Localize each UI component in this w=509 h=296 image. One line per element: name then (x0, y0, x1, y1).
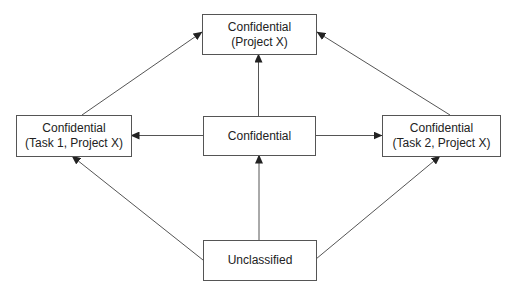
edge-left-to-top (82, 32, 202, 115)
edge-right-to-top (317, 32, 450, 115)
node-confidential-task-2: Confidential (Task 2, Project X) (382, 115, 501, 157)
node-confidential: Confidential (203, 116, 316, 156)
node-sublabel: (Project X) (231, 35, 288, 50)
node-label: Confidential (228, 129, 291, 144)
node-label: Confidential (228, 20, 291, 35)
node-label: Confidential (410, 121, 473, 136)
edge-bottom-to-left (72, 156, 203, 260)
node-label: Confidential (42, 121, 105, 136)
node-unclassified: Unclassified (203, 240, 317, 281)
edge-bottom-to-right (316, 156, 440, 259)
node-sublabel: (Task 1, Project X) (25, 136, 123, 151)
node-sublabel: (Task 2, Project X) (392, 136, 490, 151)
node-confidential-project-x: Confidential (Project X) (202, 14, 317, 55)
lattice-diagram: Confidential (Project X) Confidential (T… (0, 0, 509, 296)
node-confidential-task-1: Confidential (Task 1, Project X) (16, 115, 132, 157)
node-label: Unclassified (228, 253, 293, 268)
